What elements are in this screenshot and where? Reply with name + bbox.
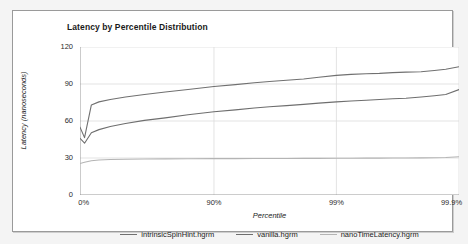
y-axis-tick-label: 90 (39, 79, 73, 88)
legend-item[interactable]: vanilla.hgrm (236, 230, 297, 239)
legend-line-icon (236, 234, 253, 235)
x-axis-tick-labels: 0%90%99%99.9% (80, 198, 459, 210)
x-axis-tick-label: 90% (206, 198, 221, 207)
x-axis-title: Percentile (80, 211, 459, 220)
legend-line-icon (320, 234, 337, 235)
y-axis-tick-label: 120 (39, 42, 73, 51)
plot-area (80, 47, 459, 195)
y-axis-tick-labels: 0306090120 (39, 47, 73, 195)
chart-frame: Latency by Percentile Distribution Laten… (12, 10, 453, 232)
legend-label: vanilla.hgrm (257, 230, 297, 239)
plot-svg (80, 47, 459, 195)
chart-figure: Latency by Percentile Distribution Laten… (0, 0, 468, 244)
legend-item[interactable]: nanoTimeLatency.hgrm (320, 230, 419, 239)
legend-label: nanoTimeLatency.hgrm (341, 230, 419, 239)
chart-title: Latency by Percentile Distribution (67, 22, 208, 32)
legend-label: intrinsicSpinHint.hgrm (141, 230, 214, 239)
x-axis-tick-label: 99.9% (441, 198, 462, 207)
legend-item[interactable]: intrinsicSpinHint.hgrm (120, 230, 214, 239)
x-axis-tick-label: 99% (329, 198, 344, 207)
legend-line-icon (120, 234, 137, 235)
y-axis-title: Latency (nanoseconds) (19, 31, 28, 191)
x-axis-tick-label: 0% (78, 198, 89, 207)
chart-legend: intrinsicSpinHint.hgrmvanilla.hgrmnanoTi… (80, 227, 459, 241)
y-axis-tick-label: 60 (39, 116, 73, 125)
y-axis-tick-label: 30 (39, 153, 73, 162)
y-axis-tick-label: 0 (39, 190, 73, 199)
